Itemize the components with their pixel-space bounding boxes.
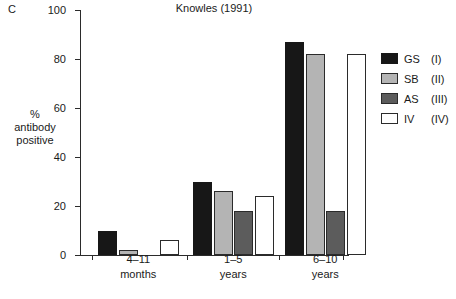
y-tick-label-40: 40 bbox=[54, 151, 66, 163]
plot-area: 020406080100 bbox=[80, 10, 348, 255]
figure-panel: C Knowles (1991) % antibody positive 020… bbox=[0, 0, 456, 299]
y-tick-label-60: 60 bbox=[54, 102, 66, 114]
bar bbox=[234, 211, 253, 255]
y-tick-20: 20 bbox=[75, 206, 80, 207]
y-axis-title-line-3: positive bbox=[4, 134, 66, 147]
y-axis-title-line-2: antibody bbox=[4, 121, 66, 134]
bar bbox=[255, 196, 274, 255]
bar bbox=[160, 240, 179, 255]
y-tick-80: 80 bbox=[75, 59, 80, 60]
legend-roman: (III) bbox=[431, 93, 448, 105]
x-category-label-0-line-1: months bbox=[120, 267, 156, 282]
x-tick-1 bbox=[187, 255, 188, 260]
x-tick-0 bbox=[92, 255, 93, 260]
y-tick-label-20: 20 bbox=[54, 200, 66, 212]
legend-label: GS bbox=[404, 53, 426, 65]
legend-swatch-icon bbox=[381, 73, 398, 84]
legend-label: SB bbox=[404, 73, 426, 85]
y-tick-label-100: 100 bbox=[48, 4, 66, 16]
legend-item-gs[interactable]: GS(I) bbox=[381, 50, 449, 67]
panel-label: C bbox=[8, 3, 16, 15]
bar bbox=[98, 231, 117, 256]
x-tick-2 bbox=[279, 255, 280, 260]
chart-legend: GS(I)SB(II)AS(III)IV(IV) bbox=[381, 50, 449, 130]
legend-label: IV bbox=[404, 113, 426, 125]
x-category-label-1-line-1: years bbox=[220, 267, 247, 282]
y-axis-line bbox=[80, 10, 81, 256]
y-tick-100: 100 bbox=[75, 10, 80, 11]
x-tick-3 bbox=[343, 255, 344, 260]
y-tick-0: 0 bbox=[75, 255, 80, 256]
x-category-label-1: 1–5years bbox=[220, 252, 247, 282]
x-category-label-2-line-0: 6–10 bbox=[312, 252, 339, 267]
x-category-label-0-line-0: 4–11 bbox=[120, 252, 156, 267]
legend-swatch-icon bbox=[381, 113, 398, 124]
legend-item-as[interactable]: AS(III) bbox=[381, 90, 449, 107]
legend-roman: (IV) bbox=[431, 113, 449, 125]
bar bbox=[326, 211, 345, 255]
bar bbox=[347, 54, 366, 255]
legend-roman: (I) bbox=[431, 53, 441, 65]
x-category-label-2: 6–10years bbox=[312, 252, 339, 282]
bar bbox=[214, 191, 233, 255]
x-category-label-0: 4–11months bbox=[120, 252, 156, 282]
bar bbox=[193, 182, 212, 256]
y-tick-label-0: 0 bbox=[60, 249, 66, 261]
y-tick-60: 60 bbox=[75, 108, 80, 109]
legend-roman: (II) bbox=[431, 73, 444, 85]
legend-label: AS bbox=[404, 93, 426, 105]
y-tick-40: 40 bbox=[75, 157, 80, 158]
y-tick-label-80: 80 bbox=[54, 53, 66, 65]
x-category-label-1-line-0: 1–5 bbox=[220, 252, 247, 267]
x-category-label-2-line-1: years bbox=[312, 267, 339, 282]
bar bbox=[306, 54, 325, 255]
legend-swatch-icon bbox=[381, 53, 398, 64]
legend-item-iv[interactable]: IV(IV) bbox=[381, 110, 449, 127]
bar bbox=[285, 42, 304, 255]
legend-swatch-icon bbox=[381, 93, 398, 104]
legend-item-sb[interactable]: SB(II) bbox=[381, 70, 449, 87]
